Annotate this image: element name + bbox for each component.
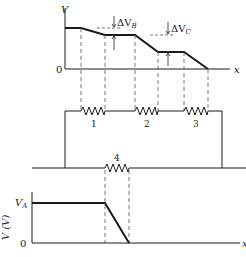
resistor-4-label: 4 <box>114 153 120 163</box>
top-y-axis-label: V <box>61 4 70 15</box>
resistor-3 <box>184 107 208 115</box>
top-potential-graph: ΔVB ΔVC V 0 x <box>56 4 240 75</box>
projection-lines-lower <box>105 170 129 243</box>
resistor-3-label: 3 <box>193 119 199 129</box>
bottom-origin-label: 0 <box>20 238 26 249</box>
resistor-1 <box>81 107 105 115</box>
resistor-1-label: 1 <box>91 119 97 129</box>
bottom-x-axis-label: x <box>242 238 246 249</box>
va-label: VA <box>15 197 27 210</box>
resistor-2-label: 2 <box>144 119 150 129</box>
resistor-4 <box>105 164 129 172</box>
bottom-potential-graph: VA 0 x V (V) <box>0 192 246 249</box>
resistor-2 <box>135 107 158 115</box>
circuit <box>32 107 246 172</box>
top-x-axis-label: x <box>234 64 240 75</box>
top-origin-label: 0 <box>56 64 62 75</box>
bottom-y-axis-label: V (V) <box>0 214 11 240</box>
circuit-potential-diagram: ΔVB ΔVC V 0 x 1 2 <box>0 0 246 257</box>
bottom-potential-curve <box>32 203 129 243</box>
delta-vc-label: ΔVC <box>171 23 191 36</box>
